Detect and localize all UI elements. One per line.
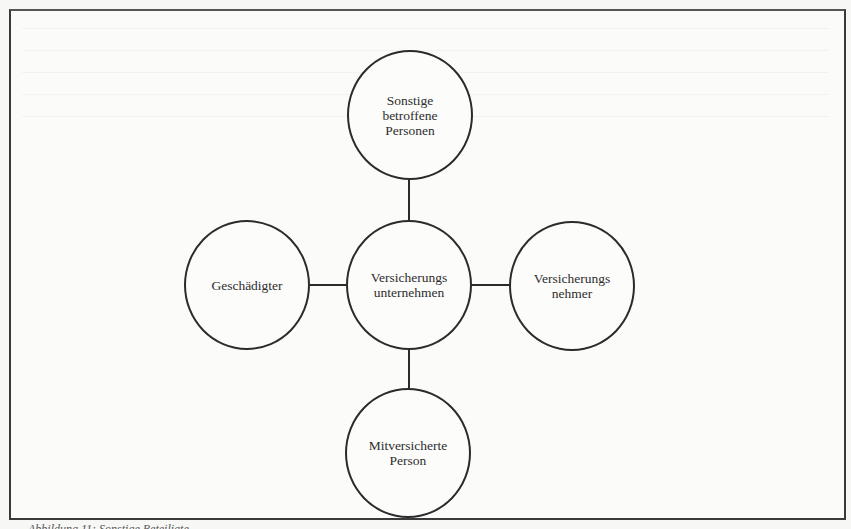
node-versicherungsunternehmen: Versicherungs unternehmen	[346, 220, 472, 350]
connector-center-left	[308, 284, 348, 286]
figure-caption: Abbildung 11: Sonstige Beteiligte ...	[28, 522, 201, 529]
node-label: Versicherungs nehmer	[528, 271, 616, 301]
node-label: Geschädigter	[205, 278, 288, 293]
node-label: Versicherungs unternehmen	[365, 270, 453, 300]
connector-center-bottom	[408, 349, 410, 389]
node-versicherungsnehmer: Versicherungs nehmer	[509, 221, 635, 351]
bleed-through-line	[22, 50, 829, 51]
node-mitversicherte-person: Mitversicherte Person	[345, 388, 471, 518]
connector-center-right	[471, 284, 511, 286]
connector-center-top	[408, 179, 410, 221]
node-geschaedigter: Geschädigter	[184, 220, 310, 350]
node-label: Sonstige betroffene Personen	[376, 93, 443, 138]
node-label: Mitversicherte Person	[363, 438, 454, 468]
bleed-through-line	[22, 28, 829, 29]
node-sonstige-betroffene-personen: Sonstige betroffene Personen	[347, 50, 473, 180]
